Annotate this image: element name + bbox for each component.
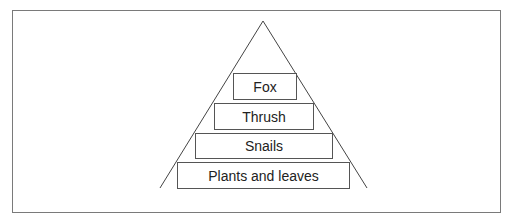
- pyramid-level-thrush: Thrush: [214, 103, 314, 130]
- level-label: Thrush: [242, 109, 286, 125]
- level-label: Snails: [245, 138, 283, 154]
- pyramid-level-snails: Snails: [195, 133, 333, 159]
- pyramid-level-fox: Fox: [233, 73, 297, 100]
- pyramid-level-plants: Plants and leaves: [177, 162, 350, 189]
- level-label: Fox: [253, 79, 276, 95]
- level-label: Plants and leaves: [208, 168, 319, 184]
